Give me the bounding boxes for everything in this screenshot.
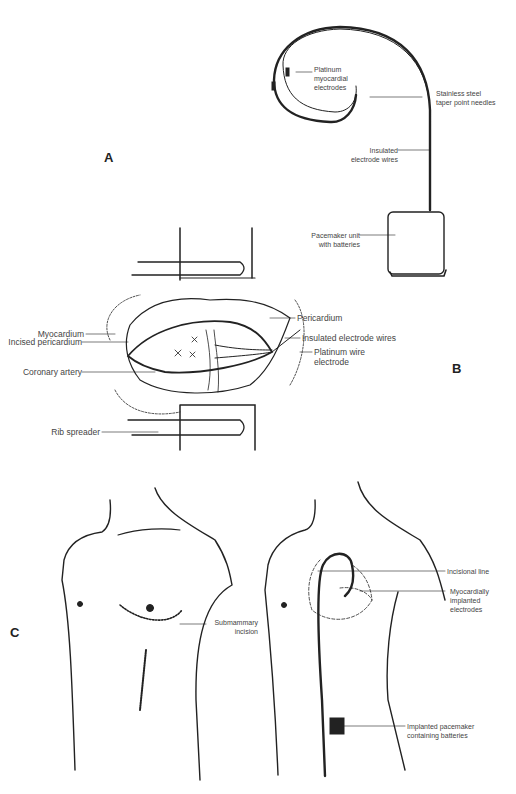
label-pericardium: Pericardium (297, 313, 342, 323)
label-platinum-wire-electrode: Platinum wire electrode (314, 347, 365, 367)
label-incised-pericardium: Incised pericardium (0, 337, 82, 347)
label-platinum-myocardial-electrodes: Platinum myocardial electrodes (314, 65, 348, 92)
label-pacemaker-unit: Pacemaker unit with batteries (302, 231, 360, 249)
label-rib-spreader: Rib spreader (40, 427, 100, 437)
surgical-field-drawing (82, 228, 312, 450)
label-submammary-incision: Submammary incision (200, 618, 258, 636)
medical-illustration (0, 0, 516, 794)
panel-label-c: C (10, 625, 19, 640)
label-myocardially-implanted-electrodes: Myocardially implanted electrodes (450, 587, 489, 614)
label-insulated-electrode-wires-a: Insulated electrode wires (350, 146, 398, 164)
label-incisional-line: Incisional line (447, 567, 489, 576)
panel-label-b: B (452, 361, 461, 376)
label-coronary-artery: Coronary artery (10, 367, 82, 377)
label-stainless-steel-needles: Stainless steel taper point needles (436, 89, 496, 107)
label-implanted-pacemaker: Implanted pacemaker containing batteries (407, 722, 474, 740)
panel-label-a: A (104, 150, 113, 165)
label-insulated-electrode-wires-b: Insulated electrode wires (302, 333, 396, 343)
